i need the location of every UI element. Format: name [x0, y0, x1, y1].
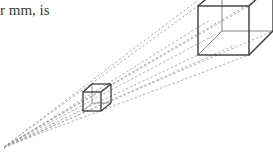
projection-rays [4, 0, 273, 148]
perspective-diagram [0, 0, 273, 160]
